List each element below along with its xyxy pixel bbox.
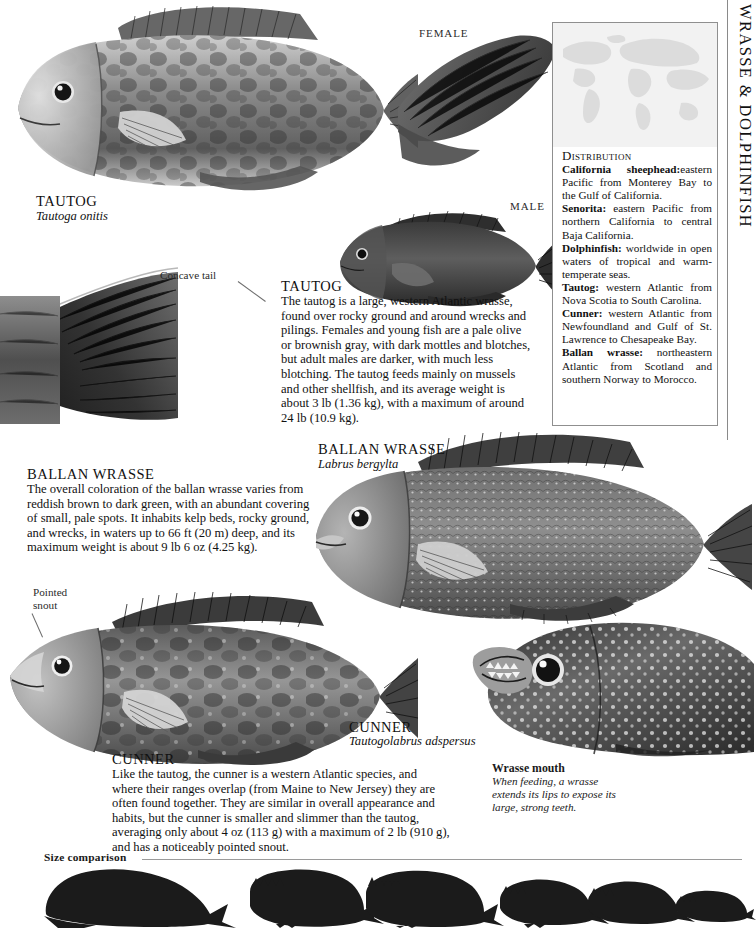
distribution-entry: Cunner: western Atlantic from Newfoundla… [562,307,712,346]
tautog-common-name: TAUTOG [36,193,97,209]
distribution-species: Cunner: [562,307,602,319]
distribution-species: California sheephead: [562,163,680,175]
distribution-entry: Ballan wrasse: northeastern Atlantic fro… [562,346,712,385]
distribution-species: Senorita: [562,202,606,214]
world-map-image [553,23,717,147]
distribution-panel: Distribution California sheephead:easter… [552,22,718,426]
ballan-description-body: The overall coloration of the ballan wra… [27,482,317,555]
distribution-entry: Senorita: eastern Pacific from northern … [562,202,712,241]
wrasse-mouth-caption-block: Wrasse mouth When feeding, a wrasse exte… [492,761,622,813]
cunner-latin-name: Tautogolabrus adspersus [349,734,476,748]
silhouette-california-sheephead [250,870,384,928]
size-comparison-silhouettes [0,862,756,928]
leader-line-concave-tail [238,281,266,302]
label-male: MALE [510,200,545,212]
tautog-description-heading: TAUTOG [281,278,531,294]
size-comparison-rule [142,859,742,860]
callout-pointed-snout: Pointed snout [33,586,67,611]
illustration-tautog-female-tail [398,28,558,198]
illustration-wrasse-mouth [466,612,756,757]
ballan-wrasse-common-name: BALLAN WRASSE [318,441,445,457]
ballan-description-heading: BALLAN WRASSE [27,466,317,482]
illustration-tautog-body-fragment [0,290,70,435]
cunner-common-name: CUNNER [349,719,412,735]
cunner-description-heading: CUNNER [112,751,450,767]
tautog-latin-name: Tautoga onitis [36,209,108,223]
wrasse-mouth-caption: When feeding, a wrasse extends its lips … [492,775,622,813]
cunner-description-block: CUNNER Like the tautog, the cunner is a … [112,751,450,855]
illustration-tautog-female [0,0,420,200]
distribution-species: Ballan wrasse: [562,346,643,358]
distribution-entry: California sheephead:eastern Pacific fro… [562,163,712,202]
distribution-title: Distribution [562,149,712,162]
distribution-text: Distribution California sheephead:easter… [562,149,712,386]
running-head-rule [727,0,728,440]
wrasse-mouth-title: Wrasse mouth [492,761,622,775]
distribution-entry: Tautog: western Atlantic from Nova Scoti… [562,281,712,307]
ballan-description-block: BALLAN WRASSE The overall coloration of … [27,466,317,555]
tautog-description-block: TAUTOG The tautog is a large, western At… [281,278,531,425]
label-female: FEMALE [419,27,468,39]
running-head: WRASSE & DOLPHINFISH [729,4,755,424]
ballan-wrasse-latin-name: Labrus bergylta [318,457,398,471]
cunner-description-body: Like the tautog, the cunner is a western… [112,767,450,855]
silhouette-ballan-wrasse [366,871,504,928]
tautog-description-body: The tautog is a large, western Atlantic … [281,294,531,425]
callout-concave-tail: Concave tail [160,269,216,282]
distribution-species: Tautog: [562,281,599,293]
silhouette-senorita [676,891,756,922]
page-root: WRASSE & DOLPHINFISH Distributio [0,0,756,928]
distribution-species: Dolphinfish: [562,242,622,254]
silhouette-dolphinfish [44,869,236,928]
distribution-entry: Dolphinfish: worldwide in open waters of… [562,242,712,281]
